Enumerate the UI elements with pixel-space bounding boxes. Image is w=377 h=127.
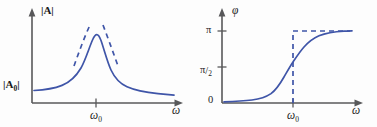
phase-y-tick-label-pi-over-2: π/2 bbox=[200, 60, 212, 76]
amplitude-panel: |A| |A0| ω0 ω bbox=[0, 0, 190, 127]
amplitude-y-tick-a0-main: |A bbox=[3, 78, 13, 90]
phase-y-axis-label: φ bbox=[232, 5, 238, 17]
amplitude-y-axis-arrowhead bbox=[29, 8, 36, 17]
phase-y-tick-label-zero: 0 bbox=[208, 95, 213, 106]
amplitude-plot-svg bbox=[0, 0, 190, 127]
amplitude-x-tick-label-omega0: ω0 bbox=[90, 110, 102, 124]
amplitude-response-curve bbox=[34, 35, 174, 96]
amplitude-x-tick-omega0-main: ω bbox=[90, 109, 98, 121]
phase-x-tick-omega0-main: ω bbox=[287, 109, 295, 121]
phase-x-tick-omega0-sub: 0 bbox=[295, 115, 299, 124]
phase-plot-svg bbox=[190, 0, 377, 127]
amplitude-y-tick-a0-close: | bbox=[17, 78, 19, 90]
phase-response-curve bbox=[224, 31, 352, 102]
amplitude-asymptote-left bbox=[74, 25, 90, 66]
phase-panel: φ π π/2 0 ω0 ω bbox=[190, 0, 377, 127]
phase-y-axis-arrowhead bbox=[219, 8, 226, 17]
amplitude-x-axis-label: ω bbox=[172, 105, 180, 117]
phase-pi-over-2-denominator: 2 bbox=[208, 70, 212, 78]
resonance-figure: |A| |A0| ω0 ω φ π bbox=[0, 0, 377, 127]
phase-x-tick-label-omega0: ω0 bbox=[287, 110, 299, 124]
amplitude-y-axis-label: |A| bbox=[41, 5, 54, 16]
phase-x-axis-label: ω bbox=[352, 105, 360, 117]
amplitude-asymptote-right bbox=[103, 25, 118, 66]
amplitude-y-tick-label-a0: |A0| bbox=[3, 79, 20, 93]
phase-y-tick-label-pi: π bbox=[206, 25, 211, 36]
amplitude-x-tick-omega0-sub: 0 bbox=[98, 115, 102, 124]
